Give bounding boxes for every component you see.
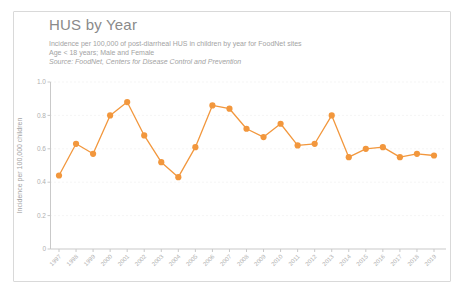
data-point[interactable] [124,99,130,105]
x-tick-label: 2008 [236,253,250,267]
y-tick-label: 0 [42,245,46,252]
data-point[interactable] [414,151,420,157]
x-tick-label: 2006 [202,253,216,267]
x-tick-label: 2005 [185,253,199,267]
data-point[interactable] [295,142,301,148]
x-tick-label: 2014 [338,253,352,267]
data-point[interactable] [431,152,437,158]
chart-source-note: Source: FoodNet, Centers for Disease Con… [49,57,241,66]
data-point[interactable] [226,106,232,112]
data-point[interactable] [107,112,113,118]
x-tick-label: 2018 [406,253,420,267]
x-tick-label: 1997 [49,253,63,267]
chart-title: HUS by Year [49,16,137,33]
data-point[interactable] [277,121,283,127]
x-tick-label: 2002 [134,253,148,267]
x-tick-label: 1998 [66,253,80,267]
x-tick-label: 2010 [270,253,284,267]
chart-card: HUS by Year Incidence per 100,000 of pos… [13,11,451,282]
line-chart[interactable]: 00.20.40.60.81.0199719981999200020012002… [14,71,450,279]
x-tick-label: 2019 [424,253,438,267]
data-point[interactable] [380,144,386,150]
data-point[interactable] [397,154,403,160]
data-point[interactable] [56,172,62,178]
x-tick-label: 2003 [151,253,165,267]
x-tick-label: 2007 [219,253,233,267]
data-point[interactable] [243,126,249,132]
y-tick-label: 0.2 [37,212,46,219]
x-tick-label: 1999 [83,253,97,267]
data-point[interactable] [260,134,266,140]
x-tick-label: 2011 [287,253,301,267]
y-tick-label: 0.8 [37,112,46,119]
data-point[interactable] [90,151,96,157]
data-point[interactable] [141,132,147,138]
chart-subtitle-line2: Age < 18 years; Male and Female [49,48,154,57]
y-tick-label: 0.6 [37,145,46,152]
y-tick-label: 0.4 [37,178,46,185]
x-tick-label: 2000 [100,253,114,267]
data-point[interactable] [329,112,335,118]
line-chart-svg[interactable]: 00.20.40.60.81.0199719981999200020012002… [14,71,450,279]
series-line [59,102,434,177]
page: HUS by Year Incidence per 100,000 of pos… [0,0,461,291]
data-point[interactable] [192,144,198,150]
x-tick-label: 2009 [253,253,267,267]
x-tick-label: 2013 [321,253,335,267]
data-point[interactable] [175,174,181,180]
x-tick-label: 2012 [304,253,318,267]
chart-subtitle-line1: Incidence per 100,000 of post-diarrheal … [49,39,302,48]
x-tick-label: 2017 [389,253,403,267]
data-point[interactable] [346,154,352,160]
data-point[interactable] [73,141,79,147]
data-point[interactable] [363,146,369,152]
x-tick-label: 2016 [372,253,386,267]
x-tick-label: 2001 [117,253,131,267]
x-tick-label: 2015 [355,253,369,267]
data-point[interactable] [209,102,215,108]
x-tick-label: 2004 [168,253,182,267]
data-point[interactable] [158,159,164,165]
y-axis-title: Incidence per 100,000 children [16,118,24,214]
data-point[interactable] [312,141,318,147]
y-tick-label: 1.0 [37,78,46,85]
